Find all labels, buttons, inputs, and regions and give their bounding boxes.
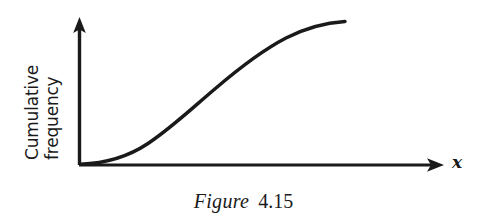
x-axis-label: x <box>452 152 462 172</box>
y-axis-label-line2: frequency <box>42 10 62 160</box>
y-axis-label-line1: Cumulative <box>22 10 42 160</box>
figure-caption: Figure4.15 <box>0 190 487 213</box>
figure-container: Cumulative frequency x Figure4.15 <box>0 0 487 223</box>
ogive-curve <box>81 21 346 164</box>
y-axis-label: Cumulative frequency <box>22 10 70 160</box>
caption-number: 4.15 <box>258 190 293 212</box>
caption-word: Figure <box>194 190 250 212</box>
